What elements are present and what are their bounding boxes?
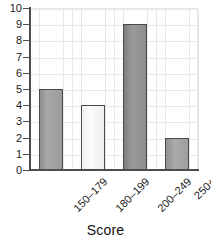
- x-axis-tick-label: 250+: [192, 176, 211, 201]
- y-axis-tick: [23, 57, 29, 58]
- y-axis-tick-label: 10: [10, 3, 22, 14]
- y-axis-tick-label: 5: [16, 84, 22, 95]
- bar: [81, 105, 105, 170]
- x-axis-tick-label: 180–199: [114, 176, 152, 214]
- y-axis-tick: [23, 170, 29, 171]
- x-axis-line: [29, 169, 199, 171]
- y-axis-tick: [23, 105, 29, 106]
- bar: [123, 24, 147, 170]
- y-axis-tick: [23, 154, 29, 155]
- y-axis-tick-label: 2: [16, 133, 22, 144]
- gridline-vertical: [114, 9, 115, 170]
- y-axis-tick: [23, 121, 29, 122]
- bar: [39, 89, 63, 170]
- gridline-vertical: [147, 9, 148, 170]
- bar-chart: 012345678910 150–179180–199200–249250+ S…: [0, 0, 211, 244]
- y-axis-line: [29, 7, 31, 171]
- y-axis-tick: [23, 8, 29, 9]
- gridline-vertical: [198, 9, 199, 170]
- y-axis-tick-label: 3: [16, 116, 22, 127]
- y-axis-tick: [23, 89, 29, 90]
- gridline-vertical: [189, 9, 190, 170]
- y-axis-tick-label: 1: [16, 149, 22, 160]
- x-axis-tick-label: 150–179: [72, 176, 110, 214]
- gridline-vertical: [63, 9, 64, 170]
- y-axis-tick-label: 6: [16, 68, 22, 79]
- y-axis-tick-label: 4: [16, 100, 22, 111]
- x-axis-title: Score: [0, 222, 211, 238]
- y-axis-tick-label: 9: [16, 19, 22, 30]
- y-axis-tick-label: 8: [16, 35, 22, 46]
- gridline-vertical: [156, 9, 157, 170]
- y-axis-tick-label: 0: [16, 165, 22, 176]
- gridline-vertical: [72, 9, 73, 170]
- y-axis-tick: [23, 73, 29, 74]
- y-axis-tick: [23, 24, 29, 25]
- gridline-vertical: [105, 9, 106, 170]
- plot-area: [30, 8, 198, 170]
- x-axis-tick-label: 200–249: [156, 176, 194, 214]
- bar: [165, 138, 189, 170]
- y-axis-tick: [23, 40, 29, 41]
- y-axis-tick: [23, 138, 29, 139]
- y-axis-tick-label: 7: [16, 52, 22, 63]
